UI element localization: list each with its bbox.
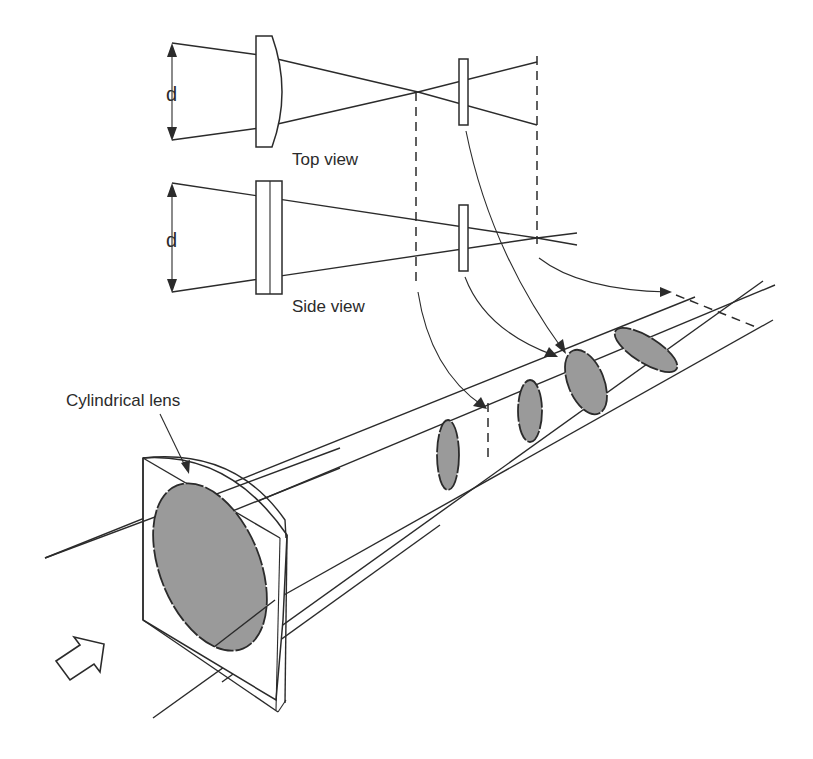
side-view-lens (256, 181, 282, 294)
vertical-line-focus-spot (437, 420, 459, 490)
transfer-arrows (418, 131, 672, 409)
top-view-lens (256, 36, 282, 147)
top-dimension-label: d (166, 83, 177, 105)
top-view-label: Top view (292, 150, 359, 169)
top-view-plate (459, 59, 468, 125)
side-view-plate (459, 205, 468, 271)
top-view-rays (172, 43, 537, 140)
top-view-group: d Top view (166, 36, 537, 169)
side-view-group: d Side view (166, 181, 577, 316)
side-dimension-label: d (166, 229, 177, 251)
cylindrical-lens-diagram: d Top view d Side view (0, 0, 813, 759)
intermediate-ellipse-1 (518, 380, 542, 442)
hollow-input-arrow-icon (56, 637, 104, 680)
cylindrical-lens-label: Cylindrical lens (66, 391, 180, 410)
side-view-label: Side view (292, 297, 365, 316)
